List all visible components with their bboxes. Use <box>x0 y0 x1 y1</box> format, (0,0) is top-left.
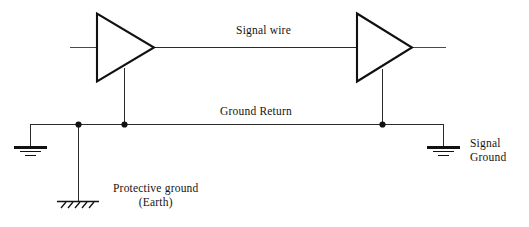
protective-earth-hatching <box>61 202 94 208</box>
protective-ground-label: Protective ground (Earth) <box>113 181 198 209</box>
protective-ground-label-line2: (Earth) <box>113 195 198 209</box>
ground-return-label-text: Ground Return <box>220 105 292 117</box>
junction-earth-tap <box>75 121 81 127</box>
signal-ground-label-line2: Ground <box>470 151 506 163</box>
junction-left-amp-ground <box>121 121 127 127</box>
junction-right-amp-ground <box>379 121 385 127</box>
signal-ground-label: Signal Ground <box>470 136 506 164</box>
signal-ground-label-line1: Signal <box>470 137 501 149</box>
protective-ground-label-line1: Protective ground <box>113 182 198 194</box>
ground-return-label: Ground Return <box>0 104 512 118</box>
signal-ground-diagram: Signal wire Ground Return Signal Ground … <box>0 0 529 227</box>
signal-wire-label-text: Signal wire <box>236 24 291 36</box>
signal-wire-label: Signal wire <box>0 23 529 37</box>
